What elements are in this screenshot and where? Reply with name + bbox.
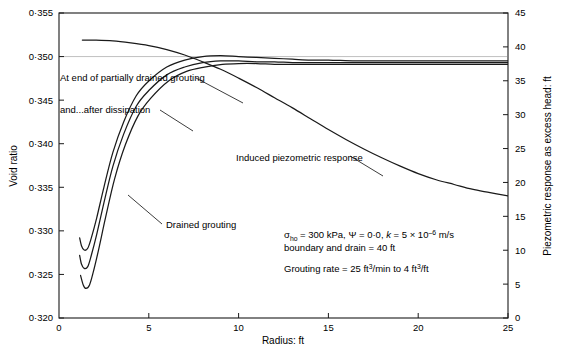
grouting-rate-post: /ft	[421, 263, 429, 274]
y-tick-label: 0·355	[29, 7, 53, 18]
x-tick-label: 0	[56, 322, 61, 333]
annotation-after-dissipation: and...after dissipation	[60, 104, 150, 115]
y-tick-label: 0·350	[29, 51, 53, 62]
chart-background	[0, 0, 564, 357]
chart-figure: 0510152025 0·3200·3250·3300·3350·3400·34…	[0, 0, 564, 357]
parameter-line-3: Grouting rate = 25 ft3/min to 4 ft3/ft	[284, 263, 429, 274]
annotation-partially-drained: At end of partially drained grouting	[60, 72, 205, 83]
annotation-induced-piezometric: Induced piezometric response	[236, 152, 363, 163]
x-tick-label: 15	[323, 322, 334, 333]
x-axis-title: Radius: ft	[262, 335, 304, 346]
x-tick-label: 25	[503, 322, 514, 333]
parameter-line-2: boundary and drain = 40 ft	[284, 242, 396, 253]
y-tick-label: 0·335	[29, 182, 53, 193]
y2-tick-label: 25	[515, 143, 526, 154]
y-tick-label: 0·330	[29, 225, 53, 236]
y-tick-label: 0·325	[29, 269, 53, 280]
y2-tick-label: 45	[515, 7, 526, 18]
y2-tick-label: 10	[515, 245, 526, 256]
y2-tick-label: 5	[515, 279, 520, 290]
k-unit: m/s	[436, 229, 454, 240]
psi-symbol: Ψ	[348, 229, 356, 240]
x-tick-label: 10	[233, 322, 244, 333]
y-tick-label: 0·345	[29, 95, 53, 106]
y2-axis-title: Piezometric response as excess head: ft	[542, 76, 553, 256]
y2-tick-label: 0	[515, 312, 520, 323]
x-tick-label: 20	[413, 322, 424, 333]
x-tick-label: 5	[146, 322, 151, 333]
y2-tick-label: 20	[515, 177, 526, 188]
sigma-value: = 300 kPa,	[297, 229, 348, 240]
k-value: = 5 × 10	[391, 229, 429, 240]
y-axis-title: Void ratio	[8, 145, 19, 187]
y2-tick-label: 35	[515, 75, 526, 86]
y2-tick-label: 30	[515, 109, 526, 120]
grouting-rate-mid: /min to 4 ft	[373, 263, 418, 274]
y-tick-label: 0·340	[29, 138, 53, 149]
grouting-rate-pre: Grouting rate = 25 ft	[284, 263, 369, 274]
y-tick-label: 0·320	[29, 312, 53, 323]
annotation-drained-grouting: Drained grouting	[166, 219, 236, 230]
psi-value: = 0·0,	[356, 229, 386, 240]
y2-tick-label: 15	[515, 211, 526, 222]
chart-svg: 0510152025 0·3200·3250·3300·3350·3400·34…	[0, 0, 564, 357]
y2-tick-label: 40	[515, 41, 526, 52]
